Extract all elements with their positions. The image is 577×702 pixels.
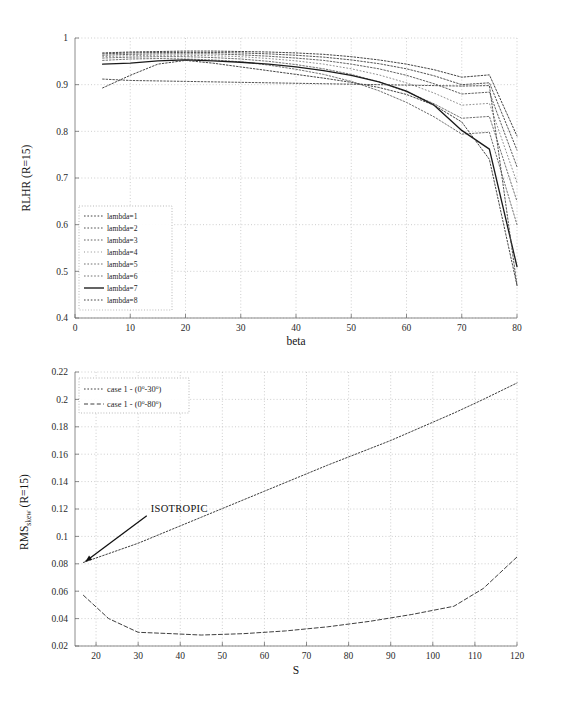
svg-text:110: 110 [468,651,482,661]
top-legend-label-2: lambda=2 [107,224,138,233]
svg-text:0.6: 0.6 [56,220,68,230]
svg-text:50: 50 [218,651,228,661]
top-chart-svg: 010203040506070800.40.50.60.70.80.91 RLH… [0,0,577,352]
svg-text:40: 40 [291,323,301,333]
isotropic-label: ISOTROPIC [151,503,208,514]
svg-text:70: 70 [302,651,312,661]
svg-text:0.4: 0.4 [56,313,68,323]
top-legend-label-3: lambda=3 [107,236,138,245]
bottom-chart-svg: 20304050607080901001101200.020.040.060.0… [0,352,577,702]
svg-text:0.8: 0.8 [56,127,68,137]
bottom-legend-label-2: case 1 - (0o-80o) [107,399,161,409]
top-legend-label-1: lambda=1 [107,212,138,221]
bottom-chart-panel: 20304050607080901001101200.020.040.060.0… [0,352,577,702]
svg-text:80: 80 [512,323,522,333]
bottom-grid [75,372,517,646]
svg-text:0.08: 0.08 [51,559,68,569]
bottom-x-axis-title: S [293,664,299,676]
top-x-axis-title: beta [286,335,305,347]
bottom-ylabel-tail: (R=15) [18,474,31,510]
svg-text:40: 40 [175,651,185,661]
svg-text:50: 50 [347,323,357,333]
top-legend-box [79,206,172,310]
svg-text:120: 120 [510,651,525,661]
svg-text:0: 0 [73,323,78,333]
svg-text:100: 100 [426,651,441,661]
svg-text:0.16: 0.16 [51,450,68,460]
svg-text:20: 20 [181,323,191,333]
svg-text:0.9: 0.9 [56,80,68,90]
top-legend-label-7: lambda=7 [107,284,138,293]
svg-text:30: 30 [236,323,246,333]
svg-text:90: 90 [386,651,396,661]
svg-text:60: 60 [402,323,412,333]
svg-text:1: 1 [63,33,68,43]
svg-text:0.22: 0.22 [51,367,68,377]
svg-text:0.12: 0.12 [51,504,68,514]
top-y-axis-title: RLHR (R=15) [20,144,33,211]
svg-text:0.14: 0.14 [51,477,68,487]
svg-text:0.7: 0.7 [56,173,68,183]
svg-text:10: 10 [126,323,136,333]
svg-text:60: 60 [260,651,270,661]
svg-text:20: 20 [91,651,101,661]
svg-text:RMSskew (R=15): RMSskew (R=15) [18,474,33,550]
svg-text:80: 80 [344,651,354,661]
bottom-legend[interactable]: case 1 - (0o-30o)case 1 - (0o-80o) [79,378,189,413]
svg-text:0.1: 0.1 [56,532,68,542]
svg-text:0.02: 0.02 [51,641,68,651]
svg-text:0.2: 0.2 [56,395,68,405]
figure-container: 010203040506070800.40.50.60.70.80.91 RLH… [0,0,577,702]
svg-text:30: 30 [133,651,143,661]
top-legend-label-5: lambda=5 [107,260,138,269]
top-legend-label-6: lambda=6 [107,272,138,281]
svg-text:70: 70 [457,323,467,333]
svg-text:0.04: 0.04 [51,614,68,624]
svg-text:0.18: 0.18 [51,422,68,432]
isotropic-arrow-shaft [85,516,146,562]
bottom-y-axis-title: RMSskew (R=15) [18,474,33,550]
top-chart-panel: 010203040506070800.40.50.60.70.80.91 RLH… [0,0,577,352]
bottom-ylabel-main: RMS [18,526,30,550]
top-legend[interactable]: lambda=1lambda=2lambda=3lambda=4lambda=5… [79,206,172,310]
top-legend-label-4: lambda=4 [107,248,138,257]
bottom-curves [83,383,517,635]
top-legend-label-8: lambda=8 [107,296,138,305]
svg-text:0.06: 0.06 [51,587,68,597]
bottom-legend-label-1: case 1 - (0o-30o) [107,384,161,394]
isotropic-annotation: ISOTROPIC [85,503,207,562]
bottom-ylabel-sub: skew [24,510,33,526]
svg-text:0.5: 0.5 [56,267,68,277]
